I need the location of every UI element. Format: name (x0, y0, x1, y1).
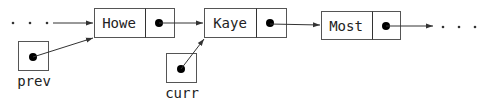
linked-list-diagram: Howe Kaye Most prev curr (0, 0, 483, 108)
node-value: Most (329, 18, 363, 34)
pointer-curr: curr (165, 54, 199, 102)
leading-ellipsis (12, 22, 49, 25)
next-pointer-dot (266, 19, 274, 27)
trailing-ellipsis (442, 26, 477, 29)
pointer-label: prev (17, 73, 51, 89)
list-node-kaye: Kaye (205, 9, 287, 38)
node-value: Kaye (213, 15, 247, 31)
node-value: Howe (102, 15, 136, 31)
pointer-prev: prev (17, 42, 51, 90)
pointer-label: curr (165, 85, 199, 101)
